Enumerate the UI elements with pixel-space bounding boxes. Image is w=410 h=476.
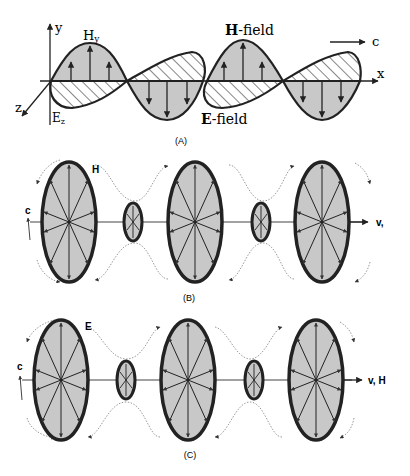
panel-b-c-label: c [25,205,31,216]
axis-x-label: x [377,66,385,81]
panel-c-field-label: E [85,321,92,332]
e-lobe-2 [127,52,205,81]
h-lobe-3 [207,40,283,81]
h-field-label: H-field [225,22,274,38]
panel-b: c H v, [25,160,384,303]
e-lobe-4 [283,52,361,81]
hy-label: Hy [83,28,100,44]
panel-c: c E v, H (C) [17,320,386,460]
panel-b-label: (B) [183,293,195,303]
axis-y-label: y [54,20,63,35]
panel-a-label: (A) [175,136,187,146]
panel-b-v-label: v, [376,217,384,228]
axis-z-label: z [15,100,22,115]
panel-a: y x z c Hy Ez H-field E-field (A) [15,20,385,146]
e-lobe-1 [50,81,127,108]
panel-c-c-label: c [17,361,23,372]
e-field-label: E-field [201,111,248,127]
h-lobe-2 [127,81,203,120]
panel-c-label: (C) [184,450,197,460]
em-wave-diagram: y x z c Hy Ez H-field E-field (A) c H v, [0,0,410,476]
ez-label: Ez [52,111,65,126]
panel-c-v-label: v, H [368,375,386,386]
h-lobe-1 [51,43,127,81]
c-label: c [372,34,379,49]
z-axis [22,81,51,116]
e-lobe-3 [204,81,283,108]
panel-b-field-label: H [92,164,99,175]
